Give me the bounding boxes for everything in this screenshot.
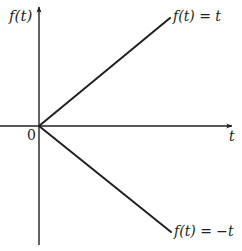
- plot-canvas: [0, 0, 242, 251]
- origin-label: 0: [27, 128, 36, 142]
- line-f-equals-negative-t: [39, 126, 171, 232]
- function-graph-figure: f(t) 0 t f(t) = t f(t) = −t: [0, 0, 242, 251]
- lower-line-annotation: f(t) = −t: [174, 224, 234, 238]
- upper-line-annotation: f(t) = t: [173, 9, 221, 23]
- x-axis-label: t: [229, 129, 235, 143]
- y-axis-label: f(t): [9, 9, 32, 24]
- line-f-equals-t: [39, 18, 170, 126]
